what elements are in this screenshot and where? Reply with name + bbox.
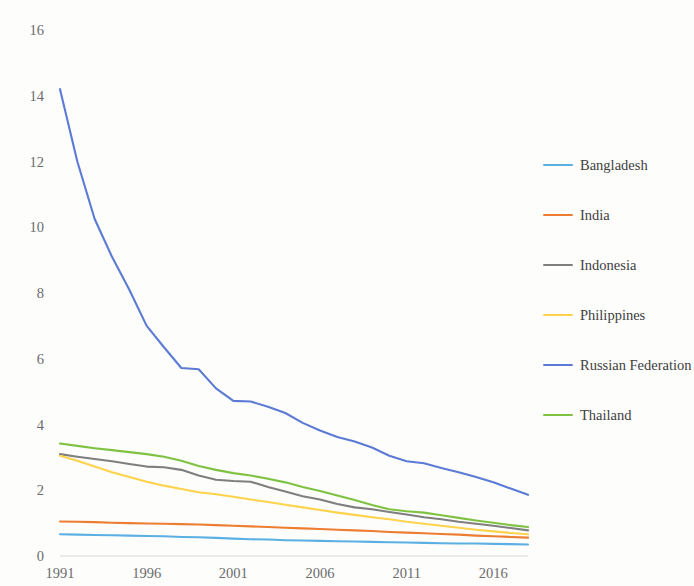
legend-item-label: Indonesia xyxy=(573,257,636,274)
legend-swatch-icon xyxy=(543,214,573,216)
line-chart: 0246810121416199119962001200620112016 Ba… xyxy=(0,0,694,586)
legend-swatch-icon xyxy=(543,364,573,366)
plot-area: 0246810121416199119962001200620112016 xyxy=(0,0,540,586)
series-line-thailand xyxy=(60,444,528,528)
legend-item-russian-federation[interactable]: Russian Federation xyxy=(543,340,694,390)
y-axis-tick-label: 2 xyxy=(37,482,44,498)
legend-item-bangladesh[interactable]: Bangladesh xyxy=(543,140,694,190)
x-axis-tick-label: 2001 xyxy=(219,565,248,581)
y-axis-tick-label: 10 xyxy=(30,219,45,235)
series-line-bangladesh xyxy=(60,534,528,544)
y-axis-tick-label: 12 xyxy=(30,154,45,170)
legend-item-label: Thailand xyxy=(573,407,632,424)
chart-legend: BangladeshIndiaIndonesiaPhilippinesRussi… xyxy=(543,140,694,440)
y-axis-tick-label: 6 xyxy=(37,351,44,367)
y-axis-tick-label: 0 xyxy=(37,548,44,564)
legend-swatch-icon xyxy=(543,164,573,166)
x-axis-tick-label: 2011 xyxy=(392,565,420,581)
legend-item-philippines[interactable]: Philippines xyxy=(543,290,694,340)
y-axis-tick-label: 4 xyxy=(37,417,45,433)
legend-swatch-icon xyxy=(543,314,573,316)
x-axis-tick-label: 2006 xyxy=(306,565,335,581)
x-axis-tick-label: 1996 xyxy=(132,565,161,581)
legend-item-india[interactable]: India xyxy=(543,190,694,240)
legend-item-indonesia[interactable]: Indonesia xyxy=(543,240,694,290)
legend-item-label: Bangladesh xyxy=(573,157,648,174)
y-axis-tick-label: 16 xyxy=(30,22,45,38)
x-axis-tick-label: 1991 xyxy=(46,565,75,581)
y-axis-tick-label: 14 xyxy=(30,88,45,104)
series-line-russian-federation xyxy=(60,89,528,495)
legend-item-label: India xyxy=(573,207,610,224)
plot-svg: 0246810121416199119962001200620112016 xyxy=(0,0,540,586)
legend-swatch-icon xyxy=(543,414,573,416)
legend-item-thailand[interactable]: Thailand xyxy=(543,390,694,440)
series-line-indonesia xyxy=(60,454,528,530)
legend-item-label: Russian Federation xyxy=(573,357,692,374)
x-axis-tick-label: 2016 xyxy=(479,565,508,581)
legend-swatch-icon xyxy=(543,264,573,266)
legend-item-label: Philippines xyxy=(573,307,645,324)
y-axis-tick-label: 8 xyxy=(37,285,44,301)
